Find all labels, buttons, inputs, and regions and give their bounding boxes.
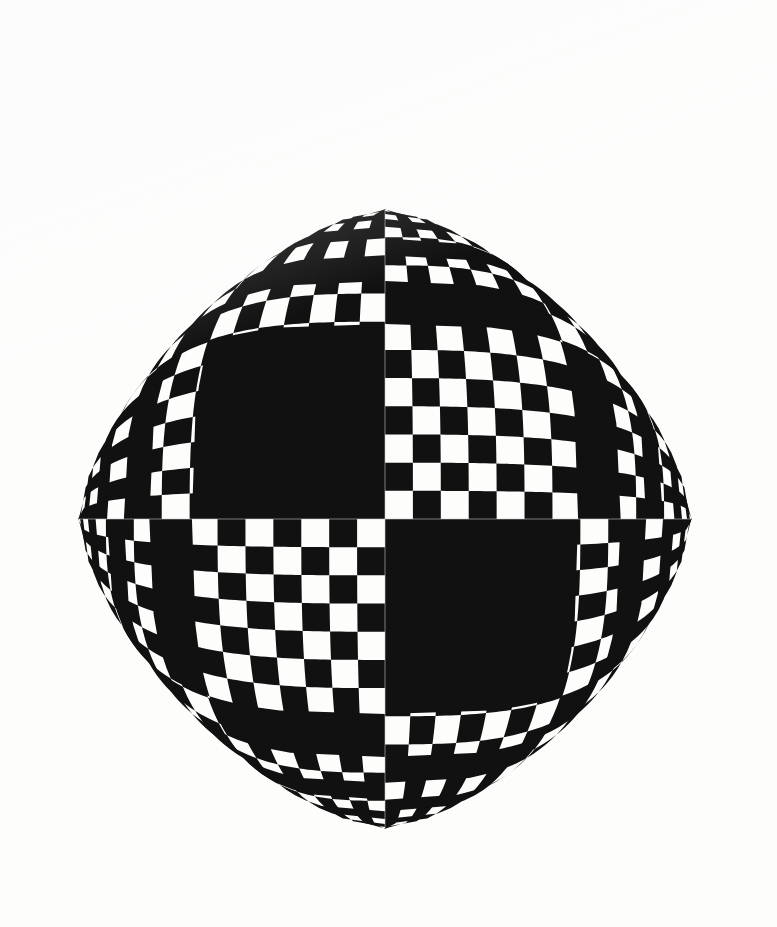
checker-tile (490, 353, 520, 383)
checker-tile (358, 378, 385, 406)
checker-tile (220, 625, 250, 655)
checker-tile (329, 463, 357, 491)
checker-tile (218, 519, 246, 546)
checker-tile (245, 491, 273, 519)
checker-tile (357, 491, 385, 519)
checker-tile (273, 463, 301, 491)
checker-tile (406, 265, 432, 294)
checker-tile (190, 439, 219, 468)
checker-tile (302, 603, 330, 632)
checker-tile (385, 519, 578, 714)
checker-tile (218, 572, 247, 601)
checker-tile (441, 463, 469, 491)
checker-tile (301, 435, 329, 463)
checker-tile (358, 660, 385, 688)
checker-tile (193, 386, 223, 417)
checker-tile (277, 351, 306, 380)
checker-tile (301, 491, 329, 519)
checker-tile (525, 492, 553, 519)
checker-tile (218, 464, 246, 492)
checker-tile (468, 435, 496, 464)
checker-tile (332, 688, 359, 716)
axis-overlay-group (78, 209, 692, 829)
checker-tile (280, 685, 309, 715)
checker-tile (552, 466, 580, 494)
checker-tile (496, 464, 524, 492)
artwork-canvas (0, 0, 777, 927)
checker-tile (469, 491, 497, 519)
checkerboard-star-figure (0, 0, 777, 927)
checker-tile (191, 596, 220, 626)
checker-tile (274, 407, 303, 436)
checker-tile (385, 294, 410, 322)
checker-tile (550, 413, 579, 443)
checker-tile (413, 434, 441, 462)
checker-tile (330, 406, 358, 434)
checker-tile (461, 323, 490, 353)
checker-tile (334, 294, 361, 323)
checker-tile (357, 434, 385, 462)
checker-tile (359, 322, 385, 350)
checker-tile (134, 495, 162, 519)
checker-tile (246, 436, 274, 465)
checker-tile (409, 716, 436, 745)
checker-tile (577, 591, 607, 621)
checker-tile (361, 265, 385, 293)
checker-tile (456, 713, 486, 743)
checker-tile (301, 547, 329, 575)
checker-tile (357, 604, 385, 632)
checker-tile (250, 655, 280, 685)
checker-tile (432, 294, 460, 323)
checker-tile (524, 437, 553, 466)
checker-tile (608, 471, 636, 497)
checker-tile (253, 325, 283, 355)
checker-tile (385, 735, 543, 782)
checker-tile (190, 545, 218, 573)
checker-tile (495, 408, 524, 437)
checker-tile (275, 630, 304, 659)
checker-tile (163, 417, 193, 447)
checker-tile (440, 407, 468, 436)
checker-tile (385, 406, 413, 434)
checker-tile (106, 476, 134, 502)
checker-tile (273, 519, 301, 547)
checker-tile (330, 632, 358, 660)
checker-tile (248, 380, 277, 410)
checker-tile (329, 575, 357, 603)
checker-tile (304, 659, 332, 688)
checker-tile (245, 546, 273, 574)
checker-tile (190, 492, 218, 519)
checker-tile (438, 350, 466, 379)
checker-tile (223, 355, 253, 386)
checker-tile (579, 442, 608, 471)
checker-tile (385, 237, 406, 265)
checker-tile (520, 383, 550, 413)
checker-tile (357, 547, 385, 575)
checker-tile (306, 322, 334, 351)
checker-tile (367, 209, 385, 237)
checker-tile (385, 350, 412, 378)
checker-tile (466, 379, 495, 408)
checker-tile (162, 468, 190, 495)
checker-tile (636, 497, 664, 519)
checker-tile (303, 378, 331, 407)
checker-tile (413, 491, 441, 519)
checker-tile (331, 350, 359, 378)
checker-tile (599, 519, 646, 679)
checker-tile (385, 463, 413, 491)
checker-tile (329, 519, 357, 547)
checker-tile (274, 574, 302, 603)
checker-tile (580, 493, 608, 519)
checker-tile (246, 601, 275, 630)
checker-tile (410, 322, 437, 350)
checker-tile (412, 378, 440, 406)
checker-tile (284, 295, 314, 325)
checker-tile (342, 237, 367, 266)
checker-tile (580, 543, 608, 570)
checker-tile (219, 410, 248, 439)
checker-tile (78, 501, 106, 519)
